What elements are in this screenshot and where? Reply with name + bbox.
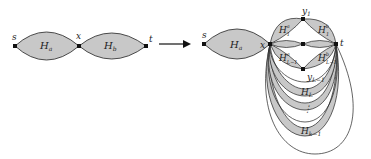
- vertex-x-right: [268, 42, 272, 46]
- diagram-canvas: s x t Ha Hb: [0, 0, 371, 159]
- diagram-svg: s x t Ha Hb: [0, 0, 371, 159]
- vertex-x-left: [77, 44, 81, 48]
- vertex-t-right: [334, 42, 338, 46]
- label-yL1: yL−1: [306, 72, 325, 83]
- vertex-s-right: [202, 42, 206, 46]
- right-graph: s x t y1 yL−1 Ha Ha1 Hb1 HaL−1 HbL−1 HL …: [202, 6, 353, 154]
- label-t-left: t: [149, 34, 153, 44]
- label-x-left: x: [76, 31, 81, 41]
- label-y1: y1: [301, 6, 311, 17]
- vertex-yL1: [301, 67, 305, 71]
- label-x-right: x: [260, 40, 265, 50]
- vertex-middle: [301, 42, 305, 46]
- label-t-right: t: [340, 38, 344, 48]
- label-s-left: s: [12, 32, 17, 42]
- left-graph: s x t Ha Hb: [12, 31, 153, 60]
- vertex-s-left: [13, 44, 17, 48]
- vertex-y1: [301, 17, 305, 21]
- label-s-right: s: [202, 30, 207, 40]
- vertex-t-left: [144, 44, 148, 48]
- label-dots: ⋮: [303, 104, 312, 114]
- transform-arrow: [159, 40, 191, 48]
